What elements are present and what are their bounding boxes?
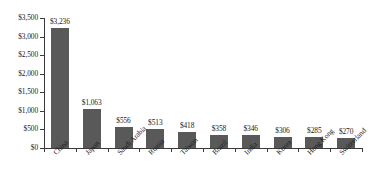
x-axis-tick	[235, 148, 236, 152]
x-axis-tick	[298, 148, 299, 152]
x-axis-tick	[139, 148, 140, 152]
x-axis-tick	[362, 148, 363, 152]
bar	[51, 28, 69, 148]
y-axis-tick-label: $1,000	[0, 107, 38, 114]
y-axis-tick-label: $3,500	[0, 14, 38, 21]
y-axis-tick-label: $1,500	[0, 88, 38, 95]
y-axis-tick-label: $2,000	[0, 70, 38, 77]
x-axis-tick	[44, 148, 45, 152]
x-axis-tick	[108, 148, 109, 152]
y-axis-tick-label: $3,000	[0, 33, 38, 40]
bar-chart: $0$500$1,000$1,500$2,000$2,500$3,000$3,5…	[0, 0, 376, 192]
y-axis-tick	[40, 111, 44, 112]
y-axis-tick	[40, 129, 44, 130]
x-axis-tick	[171, 148, 172, 152]
x-axis-tick	[76, 148, 77, 152]
y-axis-tick-label: $0	[0, 144, 38, 151]
y-axis-tick	[40, 55, 44, 56]
x-axis-tick	[267, 148, 268, 152]
y-axis-tick-label: $2,500	[0, 51, 38, 58]
x-axis-tick	[330, 148, 331, 152]
y-axis-line	[44, 18, 45, 148]
y-axis-tick	[40, 92, 44, 93]
bar-value-label: $1,063	[70, 99, 114, 106]
bar-value-label: $3,236	[38, 18, 82, 25]
x-axis-tick	[203, 148, 204, 152]
y-axis-tick	[40, 74, 44, 75]
y-axis-tick-label: $500	[0, 125, 38, 132]
y-axis-tick	[40, 37, 44, 38]
